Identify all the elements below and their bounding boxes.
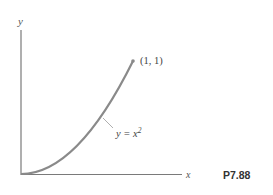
leader-line: [103, 118, 113, 128]
point-marker: [131, 59, 135, 63]
y-axis-label: y: [17, 15, 23, 27]
parabola-curve: [21, 61, 133, 174]
equation-exponent: 2: [138, 126, 142, 135]
figure-number: P7.88: [223, 169, 251, 181]
equation-label: y = x2: [115, 126, 142, 139]
point-label: (1, 1): [140, 55, 163, 67]
x-axis-label: x: [185, 169, 191, 180]
figure-canvas: y x (1, 1) y = x2 P7.88: [0, 0, 273, 195]
